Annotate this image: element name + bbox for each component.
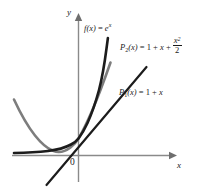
taylor-polynomial-figure: y x 0 f(x) = ex P2(x) = 1 + x + x22 P1(x… <box>0 0 198 195</box>
label-p2-plus: + <box>164 42 173 52</box>
label-p2-fraction-numerator: x2 <box>173 36 182 45</box>
label-p1-linear: P1(x) = 1 + x <box>119 88 163 98</box>
curve-f-exponential <box>14 38 108 153</box>
label-p1-x-term: x <box>159 87 163 97</box>
y-axis-label: y <box>67 8 71 17</box>
label-p2-arg: (x) <box>128 42 137 52</box>
label-p2-quadratic: P2(x) = 1 + x + x22 <box>120 36 182 56</box>
x-axis-label: x <box>177 161 181 170</box>
x-axis-arrowhead <box>169 152 177 159</box>
label-f-arg: (x) <box>86 23 95 33</box>
y-axis-arrowhead <box>75 13 82 21</box>
label-f-exponential: f(x) = ex <box>84 22 111 32</box>
curve-p1-linear <box>47 67 147 185</box>
label-p2-fraction: x22 <box>173 36 182 56</box>
label-p1-equals: = 1 + <box>137 87 159 97</box>
origin-label: 0 <box>70 158 75 168</box>
curve-p2-quadratic <box>14 63 111 152</box>
label-f-equals: = <box>96 23 105 33</box>
label-f-exponent: x <box>109 22 112 28</box>
label-p1-arg: (x) <box>127 87 136 97</box>
label-p2-equals: = 1 + <box>138 42 160 52</box>
label-p2-fraction-denominator: 2 <box>173 45 182 56</box>
label-p2-fraction-numerator-exponent: 2 <box>178 36 181 42</box>
